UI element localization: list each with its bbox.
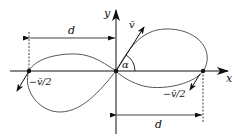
right-half-velocity-vector: [190, 74, 200, 90]
lower-distance-label: d: [155, 118, 162, 131]
velocity-label: v̄: [129, 19, 135, 30]
y-axis-label: y: [103, 7, 111, 20]
origin-point: [114, 69, 118, 73]
right-half-velocity-label: −v̄/2: [163, 88, 186, 99]
angle-label: α: [122, 59, 129, 70]
velocity-vector: [116, 27, 144, 71]
x-axis-label: x: [226, 72, 233, 85]
left-half-velocity-label: −v̄/2: [29, 76, 52, 87]
figure-eight-trajectory-diagram: x y v̄ α −v̄/2 −v̄/2 d d: [0, 0, 237, 138]
upper-distance-label: d: [68, 24, 75, 37]
